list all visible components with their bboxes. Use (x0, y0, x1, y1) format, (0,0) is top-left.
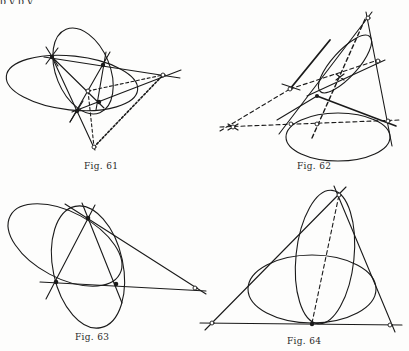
point-black (86, 216, 91, 221)
point-open (210, 321, 214, 325)
ellipse-wide (248, 255, 376, 323)
point-open (193, 286, 197, 290)
caption-fig-64: Fig. 64 (287, 336, 321, 346)
caption-fig-62: Fig. 62 (297, 161, 331, 171)
point-black (114, 282, 119, 287)
point-black (97, 100, 101, 104)
figure-62 (220, 12, 400, 161)
point-open (161, 73, 165, 77)
figures-canvas (0, 0, 409, 351)
figure-64 (200, 186, 402, 332)
caption-fig-63: Fig. 63 (75, 332, 109, 342)
point-open (231, 125, 235, 129)
point-open (366, 16, 370, 20)
point-black (101, 63, 105, 67)
caption-fig-61: Fig. 61 (84, 161, 118, 171)
point-black (54, 280, 59, 285)
point-open (388, 323, 392, 327)
point-open (315, 122, 319, 126)
point-open (376, 59, 380, 63)
ellipse-lower (286, 113, 390, 161)
point-black (75, 109, 79, 113)
figure-61 (4, 19, 181, 150)
point-open (86, 89, 90, 93)
point-open (337, 193, 341, 197)
point-open (288, 87, 292, 91)
figure-63 (0, 187, 206, 335)
ellipse-horizontal (4, 49, 141, 117)
point-black (315, 94, 319, 98)
point-open (92, 145, 96, 149)
point-open (289, 122, 293, 126)
point-open (386, 119, 390, 123)
point-black (50, 55, 54, 59)
textbook-page: p y p y (0, 0, 409, 351)
point-black (310, 322, 314, 326)
